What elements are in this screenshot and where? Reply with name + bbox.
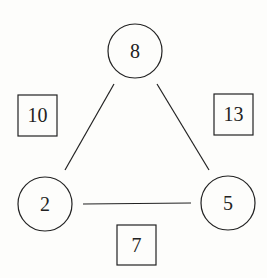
node-left-value: 2 [40, 193, 50, 215]
node-top-value: 8 [130, 40, 140, 62]
edge-bottom [83, 203, 191, 204]
triangle-diagram: 8 2 5 10 13 7 [0, 0, 267, 278]
node-right-value: 5 [223, 192, 233, 214]
edge-label-bottom: 7 [132, 234, 142, 256]
edge-label-right: 13 [224, 103, 244, 125]
edge-top-left [65, 84, 114, 170]
edge-label-left: 10 [28, 104, 48, 126]
edge-top-right [157, 84, 209, 170]
